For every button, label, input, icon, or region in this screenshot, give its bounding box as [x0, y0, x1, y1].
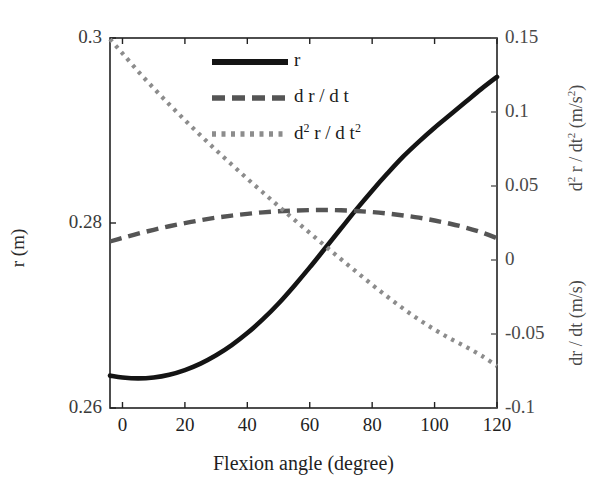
legend-label-dotted: d2 r / d t2 — [294, 121, 361, 144]
legend-label-dashed: d r / d t — [294, 85, 349, 107]
legend-label-solid: r — [294, 49, 300, 71]
chart-figure: r (m) d2 r / dt2 (m/s2) dr / dt (m/s) Fl… — [0, 0, 604, 495]
plot-area — [0, 0, 604, 495]
